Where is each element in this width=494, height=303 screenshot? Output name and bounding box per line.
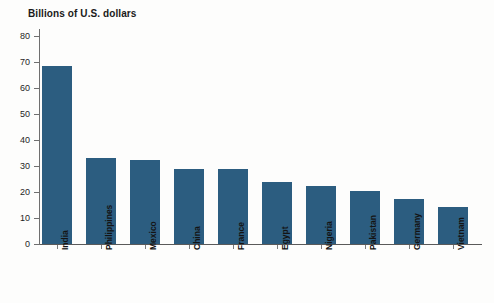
y-axis-tick-label: 30 bbox=[8, 162, 30, 171]
y-axis-tick-label: 0 bbox=[8, 240, 30, 249]
x-axis-tick bbox=[277, 245, 278, 249]
y-axis-tick-label: 50 bbox=[8, 110, 30, 119]
y-axis-tick bbox=[34, 192, 40, 193]
x-axis-tick bbox=[233, 245, 234, 249]
y-axis-tick-label: 60 bbox=[8, 84, 30, 93]
plot-area: 01020304050607080 IndiaPhilippinesMexico… bbox=[0, 0, 494, 303]
x-axis-tick bbox=[321, 245, 322, 249]
x-axis-category-label: Mexico bbox=[149, 221, 158, 250]
y-axis-tick bbox=[34, 140, 40, 141]
x-axis-tick bbox=[409, 245, 410, 249]
y-axis-tick bbox=[34, 88, 40, 89]
y-axis-tick bbox=[34, 62, 40, 63]
y-axis-tick-label: 80 bbox=[8, 32, 30, 41]
y-axis-tick bbox=[34, 218, 40, 219]
x-axis-category-label: Germany bbox=[413, 213, 422, 250]
x-axis-tick bbox=[453, 245, 454, 249]
x-axis-category-label: Pakistan bbox=[369, 215, 378, 250]
bar bbox=[42, 66, 72, 244]
y-axis-tick-label: 10 bbox=[8, 214, 30, 223]
y-axis-tick-label: 70 bbox=[8, 58, 30, 67]
x-axis-category-label: China bbox=[193, 226, 202, 250]
x-axis-tick bbox=[57, 245, 58, 249]
x-axis-tick bbox=[101, 245, 102, 249]
y-axis-tick bbox=[34, 114, 40, 115]
y-axis-tick-label: 20 bbox=[8, 188, 30, 197]
x-axis-category-label: Nigeria bbox=[325, 221, 334, 250]
x-axis-tick bbox=[365, 245, 366, 249]
bar-chart-figure: Billions of U.S. dollars 010203040506070… bbox=[0, 0, 494, 303]
x-axis-category-label: Philippines bbox=[105, 205, 114, 250]
x-axis-category-label: France bbox=[237, 222, 246, 250]
x-axis-category-label: Egypt bbox=[281, 226, 290, 250]
x-axis-tick bbox=[189, 245, 190, 249]
x-axis-category-label: Vietnam bbox=[457, 217, 466, 250]
y-axis-tick bbox=[34, 166, 40, 167]
y-axis-tick bbox=[34, 244, 40, 245]
x-axis-category-label: India bbox=[61, 230, 70, 250]
x-axis-tick bbox=[145, 245, 146, 249]
y-axis-tick-label: 40 bbox=[8, 136, 30, 145]
y-axis-tick bbox=[34, 36, 40, 37]
